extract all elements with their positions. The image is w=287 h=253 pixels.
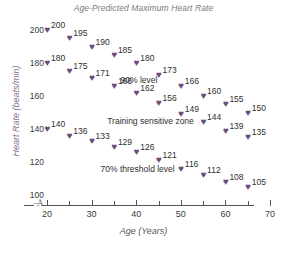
- data-point-label: 166: [185, 77, 199, 86]
- x-tick-label: 30: [80, 210, 104, 219]
- x-tick-mark-minor: [203, 201, 204, 205]
- data-point-label: 139: [229, 122, 243, 131]
- x-tick-label: 20: [35, 210, 59, 219]
- x-axis-line: [42, 205, 254, 206]
- data-point-label: 180: [51, 54, 65, 63]
- data-point-label: 200: [51, 21, 65, 30]
- x-tick-mark: [136, 200, 137, 206]
- y-tick-label: 140: [14, 125, 44, 134]
- data-point-label: 190: [96, 38, 110, 47]
- chart-annotation: 70% threshold level: [101, 165, 175, 174]
- axis-break-icon: −Å: [33, 199, 43, 208]
- data-point-label: 129: [118, 138, 132, 147]
- data-point-label: 162: [140, 84, 154, 93]
- x-tick-label: 40: [124, 210, 148, 219]
- x-tick-mark: [270, 200, 271, 206]
- data-point-label: 140: [51, 120, 65, 129]
- data-point-label: 195: [73, 29, 87, 38]
- data-point-label: 175: [73, 62, 87, 71]
- data-point-label: 133: [96, 132, 110, 141]
- chart-annotation: 90% level: [121, 76, 158, 85]
- y-tick-label: 160: [14, 92, 44, 101]
- data-point-label: 116: [185, 160, 199, 169]
- x-tick-label: 50: [169, 210, 193, 219]
- data-point-label: 149: [185, 105, 199, 114]
- y-axis-ticks: 200180160140120100: [14, 0, 44, 200]
- data-point-label: 155: [229, 95, 243, 104]
- data-point-label: 144: [207, 113, 221, 122]
- y-tick-label: 180: [14, 59, 44, 68]
- data-point-label: 105: [252, 178, 266, 187]
- chart-container: Age-Predicted Maximum Heart Rate Heart R…: [0, 0, 287, 253]
- data-point-label: 112: [207, 166, 221, 175]
- data-point-label: 156: [163, 94, 177, 103]
- y-tick-label: 120: [14, 158, 44, 167]
- x-tick-mark-minor: [159, 201, 160, 205]
- data-point-label: 180: [140, 54, 154, 63]
- x-tick-mark-minor: [69, 201, 70, 205]
- x-tick-label: 60: [213, 210, 237, 219]
- x-tick-mark-minor: [114, 201, 115, 205]
- x-tick-label: 70: [258, 210, 282, 219]
- x-tick-mark: [181, 200, 182, 206]
- x-tick-mark: [47, 200, 48, 206]
- data-point-label: 126: [140, 143, 154, 152]
- x-axis-label: Age (Years): [0, 226, 287, 236]
- data-point-label: 108: [229, 173, 243, 182]
- y-tick-label: 200: [14, 26, 44, 35]
- chart-annotation: Training sensitive zone: [107, 117, 194, 126]
- data-point-label: 135: [252, 128, 266, 137]
- x-tick-mark-minor: [248, 201, 249, 205]
- data-point-label: 136: [73, 127, 87, 136]
- data-point-label: 121: [163, 151, 177, 160]
- data-point-label: 171: [96, 69, 110, 78]
- data-point-label: 185: [118, 46, 132, 55]
- data-point-label: 150: [252, 104, 266, 113]
- data-point-label: 173: [163, 66, 177, 75]
- x-tick-mark: [225, 200, 226, 206]
- data-point-label: 160: [207, 87, 221, 96]
- x-tick-mark: [92, 200, 93, 206]
